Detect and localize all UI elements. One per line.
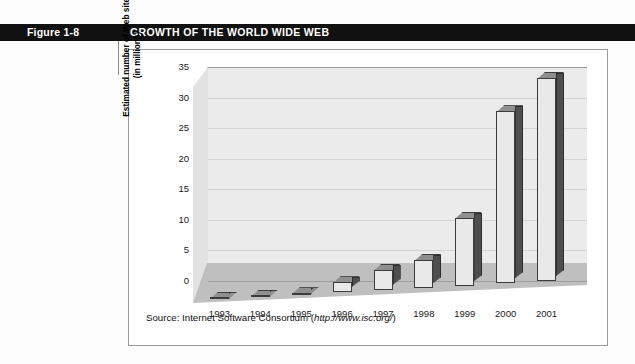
bar-front-face <box>292 293 311 295</box>
plot-back-wall <box>207 67 587 281</box>
gridline <box>208 189 587 190</box>
bar-side-face <box>556 73 564 276</box>
gridline <box>208 220 587 221</box>
bar-1994 <box>251 288 270 297</box>
x-axis-tick-label: 2000 <box>485 308 527 319</box>
bar-front-face <box>251 295 270 297</box>
figure-title: GROWTH OF THE WORLD WIDE WEB <box>130 26 329 38</box>
y-axis-tick-label: 30 <box>178 93 189 103</box>
y-axis-tick-label: 35 <box>178 62 189 72</box>
y-axis-tick-label: 0 <box>184 276 189 286</box>
gridline <box>208 159 587 160</box>
bar-1997 <box>374 262 393 290</box>
bar-side-face <box>474 213 482 281</box>
gridline <box>208 67 587 68</box>
bar-front-face <box>210 297 229 299</box>
bar-1993 <box>210 290 229 299</box>
x-axis-tick-label: 1998 <box>403 308 445 319</box>
bar-1996 <box>333 274 352 292</box>
source-note-url: http://www.isc.org/ <box>314 312 393 323</box>
gridline <box>208 98 587 99</box>
source-note: Source: Internet Software Consortium (ht… <box>146 312 396 323</box>
bar-front-face <box>414 260 433 288</box>
bar-1999 <box>455 210 474 286</box>
y-axis-tick-labels: 05101520253035 <box>151 50 189 303</box>
gridline <box>208 250 587 251</box>
y-axis-tick-label: 5 <box>184 245 189 255</box>
bar-front-face <box>537 78 556 281</box>
bar-front-face <box>455 218 474 286</box>
y-axis-tick-label: 20 <box>178 154 189 164</box>
bar-front-face <box>496 111 515 283</box>
y-axis-tick-label: 15 <box>178 184 189 194</box>
plot-area <box>193 67 587 303</box>
bar-1998 <box>414 252 433 288</box>
header-divider-rule <box>118 41 119 75</box>
y-axis-title: Estimated number of Web sites (in millio… <box>121 0 142 120</box>
bar-2000 <box>496 103 515 283</box>
source-note-prefix: Source: Internet Software Consortium ( <box>146 312 314 323</box>
y-axis-tick-label: 25 <box>178 123 189 133</box>
chart-frame: Estimated number of Web sites (in millio… <box>128 49 608 346</box>
gridline <box>208 128 587 129</box>
bar-2001 <box>537 70 556 281</box>
x-axis-tick-label: 2001 <box>526 308 568 319</box>
y-axis-title-line-1: Estimated number of Web sites <box>121 0 132 120</box>
bar-front-face <box>374 270 393 290</box>
bar-side-face <box>515 106 523 278</box>
figure-label: Figure 1-8 <box>27 26 79 38</box>
bar-front-face <box>333 282 352 292</box>
x-axis-tick-label: 1999 <box>444 308 486 319</box>
y-axis-tick-label: 10 <box>178 215 189 225</box>
bar-1995 <box>292 285 311 295</box>
source-note-suffix: ) <box>393 312 396 323</box>
y-axis-title-line-2: (in millions) <box>132 0 143 120</box>
